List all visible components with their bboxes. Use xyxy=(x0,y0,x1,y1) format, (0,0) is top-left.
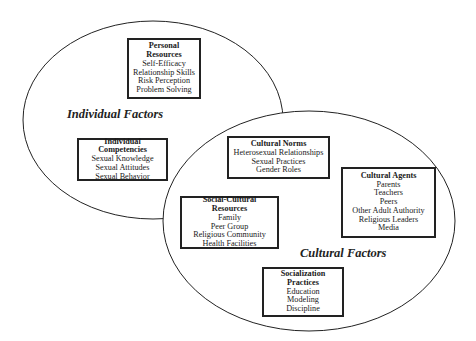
individual-factors-label: Individual Factors xyxy=(67,107,163,122)
cultural-norms-box: Cultural Norms Heterosexual Relationship… xyxy=(227,136,330,179)
socialization-practices-item: Discipline xyxy=(266,305,340,314)
cultural-agents-item: Media xyxy=(345,224,432,233)
individual-competencies-box: Individual Competencies Sexual Knowledge… xyxy=(77,138,168,181)
personal-resources-box: Personal Resources Self-Efficacy Relatio… xyxy=(127,38,201,99)
social-cultural-resources-title: Social-Cultural Resources xyxy=(184,196,275,214)
social-cultural-resources-item: Health Facilities xyxy=(184,240,275,249)
individual-competencies-title: Individual Competencies xyxy=(81,138,164,156)
social-cultural-resources-box: Social-Cultural Resources Family Peer Gr… xyxy=(180,196,279,249)
cultural-norms-item: Gender Roles xyxy=(231,166,326,175)
socialization-practices-box: Socialization Practices Education Modeli… xyxy=(262,267,344,317)
cultural-agents-box: Cultural Agents Parents Teachers Peers O… xyxy=(341,167,436,238)
individual-competencies-item: Sexual Behavior xyxy=(81,173,164,182)
cultural-factors-label: Cultural Factors xyxy=(300,246,387,261)
personal-resources-item: Problem Solving xyxy=(131,86,197,95)
